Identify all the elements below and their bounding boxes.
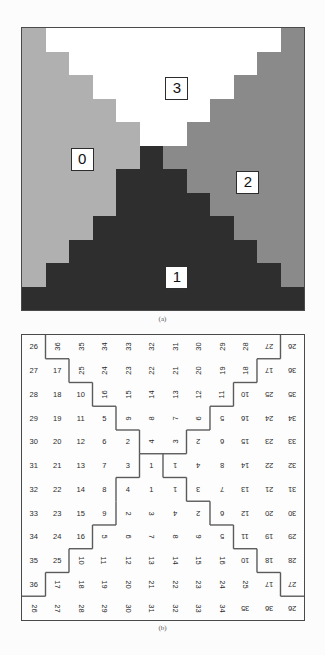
region-label-3: 3 (165, 77, 188, 100)
region-cell (116, 287, 140, 311)
value-cell: 10 (234, 549, 258, 573)
region-cell (281, 146, 305, 170)
value-cell: 2 (116, 501, 140, 525)
value-cell: 2 (116, 430, 140, 454)
region-cell (22, 287, 46, 311)
value-cell: 29 (281, 525, 305, 549)
value-cell: 29 (93, 596, 117, 620)
value-cell: 5 (93, 406, 117, 430)
value-cell: 18 (257, 549, 281, 573)
region-cell (116, 240, 140, 264)
value-cell: 29 (210, 335, 234, 359)
region-cell (163, 122, 187, 146)
value-cell: 36 (22, 573, 46, 597)
value-cell: 20 (257, 501, 281, 525)
value-cell: 20 (46, 430, 70, 454)
region-cell (163, 193, 187, 217)
panel-a-region-grid (22, 28, 304, 310)
value-cell: 33 (187, 596, 211, 620)
region-cell (93, 193, 117, 217)
region-cell (140, 287, 164, 311)
value-cell: 29 (22, 406, 46, 430)
region-cell (163, 52, 187, 76)
region-cell (257, 169, 281, 193)
region-cell (187, 263, 211, 287)
value-cell: 11 (93, 549, 117, 573)
panel-b-table: 2636353433323130292827262717252423222120… (21, 334, 305, 621)
region-cell (163, 99, 187, 123)
value-cell: 19 (93, 573, 117, 597)
value-cell: 26 (281, 335, 305, 359)
region-cell (234, 122, 258, 146)
region-cell (46, 28, 70, 52)
region-cell (187, 240, 211, 264)
value-cell: 14 (234, 454, 258, 478)
region-cell (22, 240, 46, 264)
value-cell: 4 (187, 454, 211, 478)
region-cell (187, 169, 211, 193)
value-cell: 14 (69, 478, 93, 502)
region-cell (281, 122, 305, 146)
region-cell (257, 240, 281, 264)
value-cell: 32 (163, 596, 187, 620)
region-cell (140, 240, 164, 264)
value-cell: 11 (234, 525, 258, 549)
region-cell (69, 75, 93, 99)
value-cell: 23 (257, 430, 281, 454)
value-cell: 6 (187, 406, 211, 430)
panel-b-caption: (b) (0, 624, 325, 632)
region-cell (210, 193, 234, 217)
value-cell: 26 (22, 596, 46, 620)
value-cell: 14 (140, 383, 164, 407)
value-cell: 24 (93, 359, 117, 383)
value-cell: 22 (257, 454, 281, 478)
region-cell (22, 122, 46, 146)
region-cell (93, 240, 117, 264)
value-cell: 21 (163, 359, 187, 383)
region-cell (210, 169, 234, 193)
region-cell (210, 216, 234, 240)
value-cell: 34 (210, 596, 234, 620)
value-cell: 31 (140, 596, 164, 620)
value-cell: 8 (210, 454, 234, 478)
value-cell: 21 (140, 573, 164, 597)
region-cell (116, 216, 140, 240)
region-cell (257, 28, 281, 52)
region-label-1: 1 (165, 266, 188, 289)
value-cell: 30 (22, 430, 46, 454)
region-cell (281, 75, 305, 99)
value-cell: 17 (257, 359, 281, 383)
region-cell (140, 52, 164, 76)
value-cell: 16 (234, 406, 258, 430)
region-cell (69, 240, 93, 264)
value-cell: 3 (116, 454, 140, 478)
value-cell: 33 (22, 501, 46, 525)
region-cell (257, 52, 281, 76)
region-cell (46, 193, 70, 217)
region-cell (281, 99, 305, 123)
value-cell: 18 (234, 359, 258, 383)
value-cell: 25 (257, 383, 281, 407)
region-cell (116, 263, 140, 287)
value-cell: 21 (46, 454, 70, 478)
value-cell: 22 (163, 573, 187, 597)
region-cell (93, 216, 117, 240)
value-cell: 1 (163, 478, 187, 502)
value-cell: 11 (210, 383, 234, 407)
region-cell (46, 263, 70, 287)
value-cell: 34 (22, 525, 46, 549)
region-cell (187, 28, 211, 52)
value-cell: 24 (210, 573, 234, 597)
region-cell (93, 52, 117, 76)
region-cell (163, 216, 187, 240)
region-cell (234, 240, 258, 264)
region-cell (116, 75, 140, 99)
value-cell: 30 (187, 335, 211, 359)
region-cell (187, 99, 211, 123)
region-cell (93, 169, 117, 193)
region-cell (281, 52, 305, 76)
value-cell: 13 (69, 454, 93, 478)
region-cell (163, 28, 187, 52)
value-cell: 2 (187, 430, 211, 454)
value-cell: 6 (210, 430, 234, 454)
